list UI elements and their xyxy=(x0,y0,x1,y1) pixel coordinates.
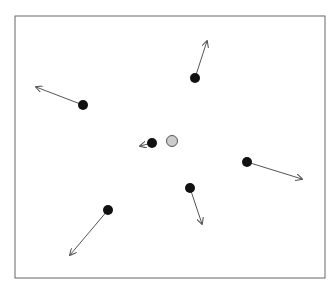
velocity-arrow-icon xyxy=(247,162,302,179)
particle-dot xyxy=(103,205,113,215)
velocity-arrow-icon xyxy=(190,188,202,224)
particle-dot xyxy=(78,100,88,110)
particles xyxy=(78,73,252,215)
particle-dot xyxy=(147,138,157,148)
center-particle xyxy=(167,136,178,147)
particle-dot xyxy=(242,157,252,167)
velocity-arrow-icon xyxy=(36,87,83,105)
particle-dot xyxy=(185,183,195,193)
velocity-arrows xyxy=(36,41,302,255)
velocity-arrow-icon xyxy=(70,210,108,255)
particle-diagram xyxy=(0,0,336,290)
diagram-frame xyxy=(15,16,325,278)
particle-dot xyxy=(190,73,200,83)
velocity-arrow-icon xyxy=(195,41,207,78)
